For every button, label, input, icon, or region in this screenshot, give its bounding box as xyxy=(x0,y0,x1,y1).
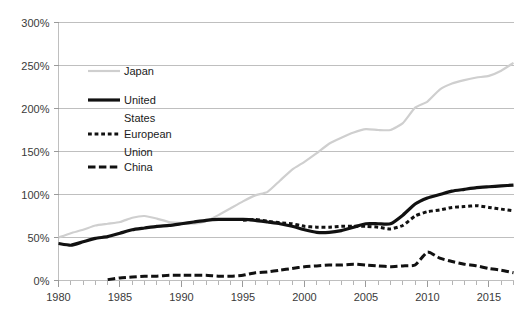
y-axis: 0%50%100%150%200%250%300% xyxy=(21,17,58,287)
y-tick-label: 150% xyxy=(21,146,49,158)
series-line-china xyxy=(108,252,514,280)
x-tick-label: 1980 xyxy=(46,291,70,303)
legend-label-china[interactable]: China xyxy=(124,161,154,173)
x-tick-label: 2015 xyxy=(477,291,501,303)
x-tick-label: 1985 xyxy=(108,291,132,303)
legend-label-japan[interactable]: Japan xyxy=(124,65,154,77)
y-tick-label: 50% xyxy=(27,232,49,244)
y-tick-label: 0% xyxy=(34,275,50,287)
x-tick-label: 2010 xyxy=(415,291,439,303)
x-tick-label: 1995 xyxy=(231,291,255,303)
legend-label-european-union[interactable]: European xyxy=(124,128,172,140)
y-tick-label: 250% xyxy=(21,60,49,72)
legend-label-european-union[interactable]: Union xyxy=(124,146,153,158)
x-tick-label: 2000 xyxy=(292,291,316,303)
chart-legend: JapanUnitedStatesEuropeanUnionChina xyxy=(88,65,172,173)
y-tick-label: 300% xyxy=(21,17,49,29)
line-chart: 0%50%100%150%200%250%300% 19801985199019… xyxy=(0,0,529,312)
legend-label-united-states[interactable]: United xyxy=(124,94,156,106)
x-axis: 19801985199019952000200520102015 xyxy=(46,281,513,303)
y-tick-label: 200% xyxy=(21,103,49,115)
x-tick-label: 2005 xyxy=(354,291,378,303)
y-tick-label: 100% xyxy=(21,189,49,201)
chart-container: 0%50%100%150%200%250%300% 19801985199019… xyxy=(0,0,529,312)
x-tick-label: 1990 xyxy=(169,291,193,303)
legend-label-united-states[interactable]: States xyxy=(124,112,156,124)
